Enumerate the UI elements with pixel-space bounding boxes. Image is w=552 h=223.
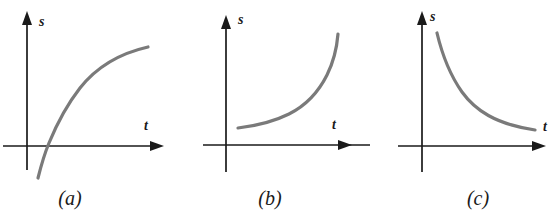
panel-caption-b: (b) <box>200 188 340 208</box>
t-axis-label-c: t <box>543 120 547 134</box>
t-axis-arrowhead-a <box>150 141 164 151</box>
figure-three-panel-graphs: s t s t s t (a) ( <box>0 0 552 223</box>
t-axis-label-b: t <box>332 118 336 132</box>
t-axis-label-a: t <box>144 119 148 133</box>
s-axis-label-b: s <box>238 13 243 27</box>
curve-b-increasing-concave-up <box>238 34 338 128</box>
panel-caption-c: (c) <box>408 188 548 208</box>
s-axis-label-c: s <box>430 10 435 24</box>
s-axis-arrowhead-c <box>417 11 427 25</box>
t-axis-arrowhead-c <box>532 141 546 151</box>
curve-c-decreasing-concave-up <box>437 33 535 130</box>
s-axis-label-a: s <box>39 15 44 29</box>
curve-a-increasing-concave-down <box>38 47 148 178</box>
panel-caption-a: (a) <box>0 188 140 208</box>
t-axis-arrowhead-b <box>338 140 352 150</box>
s-axis-arrowhead-a <box>22 11 32 25</box>
s-axis-arrowhead-b <box>221 15 231 29</box>
